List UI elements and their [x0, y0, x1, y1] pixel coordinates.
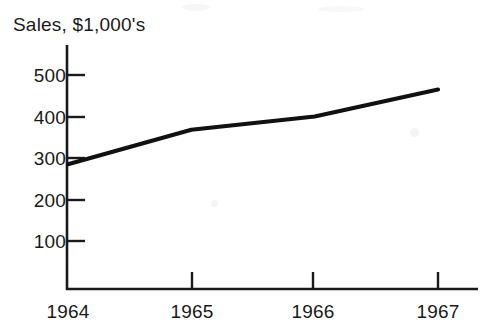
sales-data-line: [68, 90, 438, 165]
chart-screenshot: Sales, $1,000's 500 400 300 200 100 1964…: [0, 0, 493, 331]
x-axis-label-1964: 1964: [28, 301, 108, 323]
x-axis-label-1967: 1967: [398, 301, 478, 323]
y-axis-label-200: 200: [14, 190, 66, 212]
y-axis-label-100: 100: [14, 231, 66, 253]
y-axis-label-400: 400: [14, 107, 66, 129]
y-axis-label-500: 500: [14, 65, 66, 87]
y-axis-label-300: 300: [14, 148, 66, 170]
x-axis-label-1965: 1965: [152, 301, 232, 323]
x-axis-label-1966: 1966: [273, 301, 353, 323]
line-chart-plot: [0, 0, 493, 331]
